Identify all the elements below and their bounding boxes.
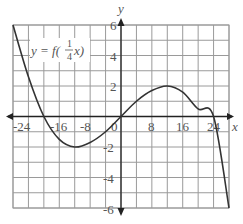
y-axis-down-arrow-icon: [118, 208, 125, 216]
x-tick-label: 24: [207, 119, 221, 134]
x-axis-left-arrow-icon: [6, 113, 13, 120]
x-axis-label: x: [231, 119, 238, 134]
x-tick-label: -8: [80, 119, 91, 134]
function-annotation: y = f( 1 4 x): [29, 38, 90, 62]
y-axis-label: y: [116, 1, 124, 16]
y-tick-label: 2: [110, 79, 117, 94]
y-tick-label: 4: [110, 49, 117, 64]
y-tick-label: 6: [110, 18, 117, 33]
annotation-numerator: 1: [67, 38, 72, 49]
annotation-lhs: y = f(: [29, 43, 61, 58]
y-tick-label: -4: [103, 171, 114, 186]
y-axis-up-arrow-icon: [118, 18, 125, 26]
x-tick-label: 16: [176, 119, 190, 134]
x-tick-label: 8: [148, 119, 155, 134]
function-graph: y x -24 -16 -8 0 8 16 24 6 4 2 -2 -4 -6 …: [0, 0, 243, 224]
y-tick-label: -6: [103, 202, 114, 217]
y-tick-label: -2: [103, 140, 114, 155]
x-tick-label: -24: [13, 119, 31, 134]
annotation-denominator: 4: [67, 51, 72, 62]
annotation-rhs: x): [73, 43, 84, 58]
